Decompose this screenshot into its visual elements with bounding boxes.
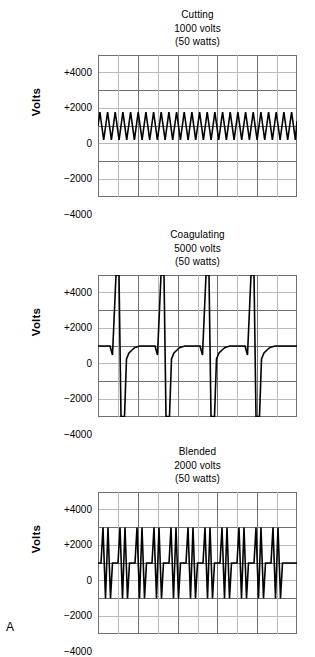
y-tick-label: +2000 — [64, 323, 92, 333]
y-tick-label: +4000 — [64, 288, 92, 298]
y-tick-label: −4000 — [64, 647, 92, 657]
chart-title-line-1: Blended — [98, 445, 297, 459]
y-tick-label: −2000 — [64, 611, 92, 621]
y-tick-labels-blended: +4000 +2000 0 −2000 −4000 — [30, 492, 92, 634]
y-tick-label: 0 — [86, 359, 92, 369]
chart-title-line-3: (50 watts) — [98, 255, 297, 269]
y-tick-label: −2000 — [64, 174, 92, 184]
chart-panel-coagulating: Coagulating 5000 volts (50 watts) Volts … — [0, 220, 315, 437]
chart-title-line-3: (50 watts) — [98, 35, 297, 49]
y-tick-label: −2000 — [64, 394, 92, 404]
y-tick-label: −4000 — [64, 210, 92, 220]
plot-area-coagulating — [98, 275, 297, 417]
y-tick-labels-cutting: +4000 +2000 0 −2000 −4000 — [30, 55, 92, 197]
y-tick-label: +4000 — [64, 68, 92, 78]
chart-title-blended: Blended 2000 volts (50 watts) — [98, 445, 297, 486]
chart-title-line-3: (50 watts) — [98, 472, 297, 486]
plot-area-cutting — [98, 55, 297, 197]
chart-title-cutting: Cutting 1000 volts (50 watts) — [98, 8, 297, 49]
chart-panel-blended: Blended 2000 volts (50 watts) Volts +400… — [0, 437, 315, 654]
chart-title-line-1: Coagulating — [98, 228, 297, 242]
chart-panel-cutting: Cutting 1000 volts (50 watts) Volts +400… — [0, 0, 315, 217]
y-tick-label: 0 — [86, 576, 92, 586]
panel-label-a: A — [6, 620, 14, 634]
y-tick-label: +2000 — [64, 540, 92, 550]
chart-title-line-1: Cutting — [98, 8, 297, 22]
plot-area-blended — [98, 492, 297, 634]
chart-title-line-2: 5000 volts — [98, 242, 297, 256]
chart-title-coagulating: Coagulating 5000 volts (50 watts) — [98, 228, 297, 269]
y-tick-label: +4000 — [64, 505, 92, 515]
y-tick-label: 0 — [86, 139, 92, 149]
chart-title-line-2: 1000 volts — [98, 22, 297, 36]
y-tick-labels-coagulating: +4000 +2000 0 −2000 −4000 — [30, 275, 92, 417]
y-tick-label: +2000 — [64, 103, 92, 113]
chart-title-line-2: 2000 volts — [98, 459, 297, 473]
